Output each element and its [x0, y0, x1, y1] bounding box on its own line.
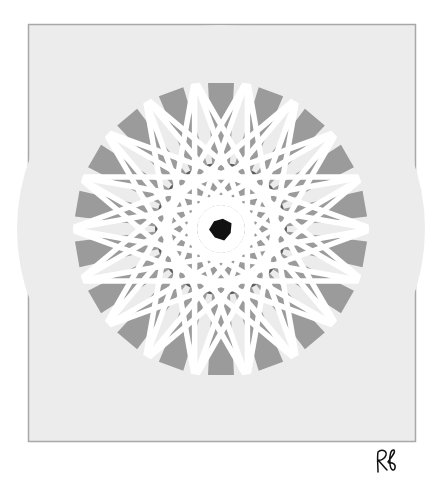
artwork-canvas: Rf [0, 0, 430, 483]
signature-mark [378, 450, 396, 472]
